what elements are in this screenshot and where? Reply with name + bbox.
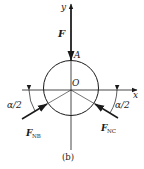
force-diagram: y x F A O α/2 α/2 F NB F NC (b) — [0, 0, 144, 169]
angle-left-label: α/2 — [7, 100, 22, 110]
x-axis-label: x — [133, 90, 138, 100]
force-f-label: F — [57, 28, 66, 39]
y-axis-label: y — [60, 2, 67, 12]
force-fnb-arrow — [22, 104, 47, 119]
angle-right-label: α/2 — [115, 100, 130, 110]
origin-label: O — [72, 78, 80, 88]
angle-arc-left — [29, 90, 35, 111]
point-a-label: A — [73, 50, 81, 60]
svg-text:NB: NB — [32, 133, 41, 139]
svg-text:NC: NC — [107, 128, 116, 134]
figure-caption: (b) — [62, 152, 74, 162]
normal-force-lines — [22, 90, 118, 119]
force-fnc-label: F NC — [100, 123, 116, 134]
force-fnb-label: F NB — [25, 128, 41, 139]
